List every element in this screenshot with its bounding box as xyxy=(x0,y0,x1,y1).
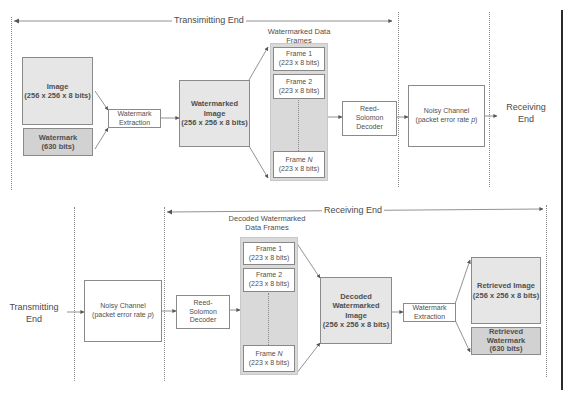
frame-title-text: Frame xyxy=(255,350,277,357)
watermarked-image-box: Watermarked Image (256 x 256 x 8 bits) xyxy=(179,80,250,147)
watermarked-image-size: (256 x 256 x 8 bits) xyxy=(181,118,247,127)
boundary-line xyxy=(398,12,399,187)
decoded-line1: Decoded xyxy=(340,292,372,301)
frame-n-var: N xyxy=(278,350,283,357)
frame-title-text: Frame xyxy=(285,156,307,163)
start-label-line1: Transmitting xyxy=(4,302,64,314)
boundary-line xyxy=(11,17,12,190)
frame-size: (223 x 8 bits) xyxy=(249,359,289,368)
watermark-extraction-box: Watermark Extraction xyxy=(108,109,161,128)
rs-line3: Decoder xyxy=(190,316,216,325)
decoded-line3: Image xyxy=(345,311,367,320)
decoded-line2: Watermarked xyxy=(332,301,379,310)
noisy-line2: (packet error rate p) xyxy=(92,311,154,320)
decoded-size: (256 x 256 x 8 bits) xyxy=(323,320,389,329)
frame-title: Frame N xyxy=(285,156,312,165)
frame-size: (223 x 8 bits) xyxy=(279,87,319,96)
retrieved-image-size: (256 x 256 x 8 bits) xyxy=(473,291,539,300)
transmitting-end-label: Transmitting End xyxy=(4,302,64,325)
frame-1: Frame 1 (223 x 8 bits) xyxy=(273,47,325,71)
decoded-frames-label: Decoded Watermarked Data Frames xyxy=(222,214,312,233)
retrieved-watermark-size: (630 bits) xyxy=(490,345,523,354)
decoded-frames-stack: Frame 1 (223 x 8 bits) Frame 2 (223 x 8 … xyxy=(240,237,298,375)
image-size: (256 x 256 x 8 bits) xyxy=(24,91,90,100)
noisy-channel-box: Noisy Channel (packet error rate p) xyxy=(408,85,485,147)
image-box: Image (256 x 256 x 8 bits) xyxy=(22,57,93,125)
watermarked-image-line2: Image xyxy=(204,109,226,118)
end-label-line2: End xyxy=(503,114,549,126)
extraction-line1: Watermark xyxy=(118,110,152,119)
rs-line3: Decoder xyxy=(356,123,382,132)
noisy-line2-text: (packet error rate xyxy=(416,116,472,123)
data-frames-stack: Frame 1 (223 x 8 bits) Frame 2 (223 x 8 … xyxy=(270,43,328,181)
noisy-line2-text: (packet error rate xyxy=(92,311,148,318)
retrieved-watermark-box: Retrieved Watermark (630 bits) xyxy=(471,327,541,355)
frame-n: Frame N (223 x 8 bits) xyxy=(243,345,295,372)
rs-line2: Solomon xyxy=(189,308,217,317)
frames-label-line2: Data Frames xyxy=(222,223,312,232)
boundary-line xyxy=(546,205,547,377)
rs-line1: Reed- xyxy=(193,299,212,308)
watermark-size: (630 bits) xyxy=(42,142,75,151)
receiving-end-label: Receiving End xyxy=(503,102,549,125)
frame-1: Frame 1 (223 x 8 bits) xyxy=(243,242,295,265)
frame-size: (223 x 8 bits) xyxy=(279,165,319,174)
noisy-line1: Noisy Channel xyxy=(424,107,470,116)
receiving-end-span-title: Receiving End xyxy=(322,205,384,215)
end-label-line1: Receiving xyxy=(503,102,549,114)
retrieved-image-title: Retrieved Image xyxy=(477,281,535,290)
frames-ellipsis-line xyxy=(298,100,299,151)
rs-line1: Reed- xyxy=(360,105,379,114)
noisy-line2-end: ) xyxy=(152,311,154,318)
noisy-line2: (packet error rate p) xyxy=(416,116,478,125)
frame-title: Frame 1 xyxy=(286,50,312,59)
image-title: Image xyxy=(47,82,69,91)
boundary-line xyxy=(74,207,75,381)
frames-ellipsis-line xyxy=(268,293,269,345)
transmitting-end-span-title: Transimitting End xyxy=(172,15,246,25)
extraction-line2: Extraction xyxy=(119,119,150,128)
watermark-extraction-box: Watermark Extraction xyxy=(403,303,456,322)
frame-title: Frame N xyxy=(255,350,282,359)
frame-title: Frame 1 xyxy=(256,245,282,254)
start-label-line2: End xyxy=(4,314,64,326)
watermark-title: Watermark xyxy=(39,133,78,142)
frames-label-line1: Watermarked Data xyxy=(264,27,334,36)
frame-2: Frame 2 (223 x 8 bits) xyxy=(273,74,325,99)
frame-2: Frame 2 (223 x 8 bits) xyxy=(243,268,295,292)
retrieved-image-box: Retrieved Image (256 x 256 x 8 bits) xyxy=(471,257,541,324)
reed-solomon-decoder-box: Reed- Solomon Decoder xyxy=(176,295,230,329)
frames-label-line1: Decoded Watermarked xyxy=(222,214,312,223)
frame-size: (223 x 8 bits) xyxy=(249,280,289,289)
decoded-watermarked-image-box: Decoded Watermarked Image (256 x 256 x 8… xyxy=(320,277,392,344)
noisy-line2-end: ) xyxy=(475,116,477,123)
frame-n: Frame N (223 x 8 bits) xyxy=(273,151,325,178)
page-edge-bar xyxy=(561,10,563,390)
noisy-line1: Noisy Channel xyxy=(100,302,146,311)
extraction-line2: Extraction xyxy=(414,313,445,322)
extraction-line1: Watermark xyxy=(413,304,447,313)
frame-size: (223 x 8 bits) xyxy=(279,59,319,68)
frame-size: (223 x 8 bits) xyxy=(249,254,289,263)
watermarked-image-line1: Watermarked xyxy=(191,99,238,108)
noisy-channel-box: Noisy Channel (packet error rate p) xyxy=(84,280,162,342)
boundary-line xyxy=(489,12,490,187)
frame-n-var: N xyxy=(308,156,313,163)
rs-line2: Solomon xyxy=(356,114,384,123)
frame-title: Frame 2 xyxy=(256,271,282,280)
frame-title: Frame 2 xyxy=(286,78,312,87)
watermark-box: Watermark (630 bits) xyxy=(23,128,93,156)
boundary-line xyxy=(164,207,165,381)
reed-solomon-decoder-box: Reed- Solomon Decoder xyxy=(342,101,397,136)
